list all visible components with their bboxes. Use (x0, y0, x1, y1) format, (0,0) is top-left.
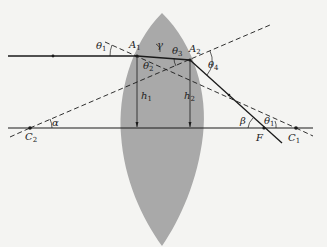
angle-gamma-label: γ (157, 40, 163, 50)
angle-theta1-bottom-label: θ1 (264, 116, 275, 128)
ray-dot (52, 55, 55, 58)
angle-theta2-label: θ2 (143, 61, 154, 73)
arc-beta (248, 118, 253, 128)
angle-beta-label: β (240, 116, 246, 126)
lens-refraction-diagram: θ1 A1 γ θ2 θ3 A2 θ4 h1 h2 α C2 β θ1 F C1 (0, 0, 327, 247)
exit-ray (190, 60, 282, 143)
height-h2-label: h2 (184, 91, 195, 103)
point-a2 (188, 58, 191, 61)
diagram-graphics (0, 0, 327, 247)
point-c2-label: C2 (25, 132, 37, 144)
point-a1 (135, 54, 138, 57)
angle-theta3-label: θ3 (172, 46, 183, 58)
point-c1 (294, 126, 298, 130)
arc-theta1-top (110, 45, 112, 56)
height-h1-label: h1 (141, 91, 152, 103)
point-c1-label: C1 (288, 133, 300, 145)
angle-theta4-label: θ4 (208, 60, 219, 72)
point-f-label: F (256, 133, 263, 143)
angle-theta1-top-label: θ1 (96, 41, 107, 53)
angle-alpha-label: α (52, 118, 59, 128)
point-a1-label: A1 (129, 40, 141, 52)
point-c2 (28, 126, 32, 130)
arc-theta1-bottom (275, 121, 276, 128)
point-exit (228, 94, 231, 97)
point-a2-label: A2 (189, 44, 201, 56)
